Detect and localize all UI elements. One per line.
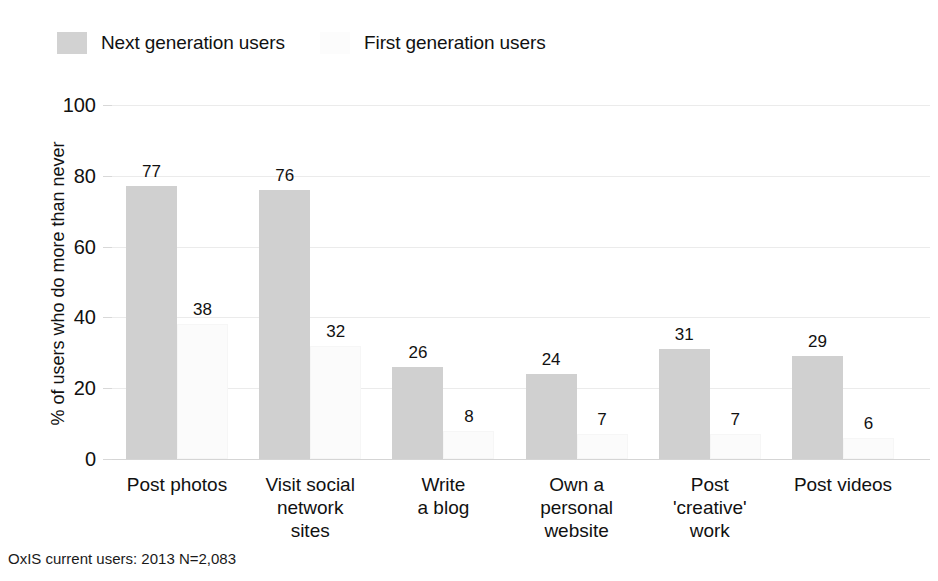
bar-first-4 [710,434,761,459]
bar-value-label-first-5: 6 [843,415,894,432]
x-axis-label-3-line-2: website [502,519,652,542]
bar-first-0 [177,324,228,459]
bar-value-label-next-2: 26 [392,344,443,361]
x-axis-label-3-line-1: personal [502,496,652,519]
x-axis-label-0: Post photos [102,473,252,496]
bar-value-label-next-3: 24 [526,351,577,368]
x-axis-label-1: Visit socialnetworksites [235,473,385,542]
x-axis-label-0-line-0: Post photos [102,473,252,496]
x-axis-label-3: Own apersonalwebsite [502,473,652,542]
bar-value-label-first-3: 7 [577,411,628,428]
bar-value-label-first-2: 8 [443,408,494,425]
bar-next-4 [659,349,710,459]
bar-next-0 [126,186,177,459]
bar-next-5 [792,356,843,459]
x-axis-labels: Post photosVisit socialnetworksitesWrite… [0,473,938,553]
x-axis-label-4: Post'creative'work [635,473,785,542]
bar-next-3 [526,374,577,459]
x-axis-label-5-line-0: Post videos [768,473,918,496]
x-axis-label-1-line-2: sites [235,519,385,542]
bar-value-label-next-5: 29 [792,333,843,350]
x-axis-label-1-line-1: network [235,496,385,519]
chart-plot-area: % of users who do more than never 020406… [0,0,938,581]
bar-next-2 [392,367,443,459]
bar-value-label-next-1: 76 [259,167,310,184]
x-axis-label-4-line-1: 'creative' [635,496,785,519]
bar-value-label-next-0: 77 [126,163,177,180]
chart-footnote: OxIS current users: 2013 N=2,083 [8,550,236,567]
bar-first-3 [577,434,628,459]
bar-first-2 [443,431,494,459]
x-axis-label-2-line-0: Write [368,473,518,496]
bar-value-label-first-1: 32 [310,323,361,340]
x-axis-label-5: Post videos [768,473,918,496]
bar-next-1 [259,190,310,459]
bar-first-5 [843,438,894,459]
bar-value-label-first-0: 38 [177,301,228,318]
bar-first-1 [310,346,361,459]
x-axis-label-4-line-2: work [635,519,785,542]
x-axis-label-4-line-0: Post [635,473,785,496]
x-axis-label-3-line-0: Own a [502,473,652,496]
bar-value-label-next-4: 31 [659,326,710,343]
x-axis-label-2: Writea blog [368,473,518,519]
bar-value-label-first-4: 7 [710,411,761,428]
x-axis-label-2-line-1: a blog [368,496,518,519]
x-axis-label-1-line-0: Visit social [235,473,385,496]
